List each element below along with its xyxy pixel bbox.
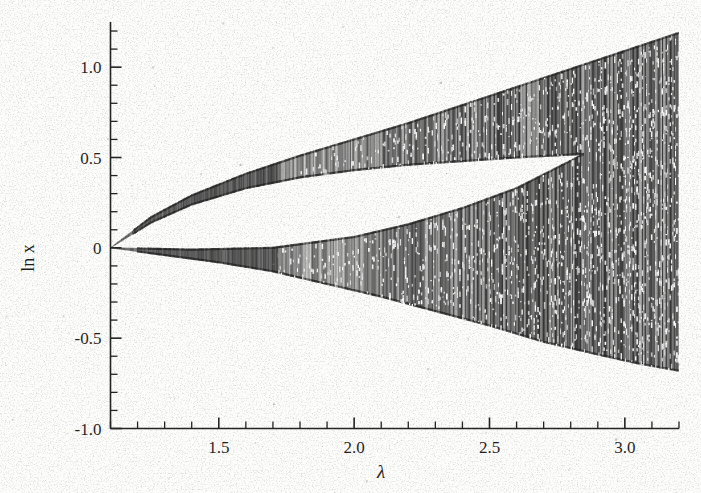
scan-dust-speck: [261, 174, 263, 176]
scan-dust-speck: [467, 338, 468, 339]
scan-dust-speck: [366, 480, 368, 482]
scan-dust-speck: [139, 167, 140, 168]
scan-dust-speck: [429, 282, 431, 284]
scan-dust-speck: [200, 173, 202, 175]
scan-dust-speck: [68, 332, 69, 333]
scan-dust-speck: [263, 242, 264, 243]
y-tick-marks: [111, 31, 122, 428]
scan-dust-speck: [6, 315, 8, 317]
scan-dust-speck: [488, 230, 490, 232]
attractor-cloud: [111, 32, 679, 372]
scan-dust-speck: [428, 297, 430, 299]
scan-dust-speck: [273, 403, 275, 405]
scan-dust-speck: [25, 409, 28, 412]
scan-dust-speck: [518, 379, 519, 380]
x-tick-label-group: 1.52.02.53.0: [208, 438, 635, 457]
x-tick-label: 2.0: [344, 438, 365, 457]
scan-dust-speck: [154, 85, 156, 87]
scan-dust-speck: [427, 368, 429, 370]
scan-dust-speck: [621, 421, 622, 422]
scan-dust-speck: [342, 26, 344, 28]
scan-dust-speck: [654, 132, 656, 134]
scan-dust-speck: [574, 177, 575, 178]
scan-dust-speck: [398, 216, 401, 219]
scan-dust-speck: [145, 412, 146, 413]
scan-dust-speck: [477, 125, 478, 126]
scan-dust-speck: [485, 432, 487, 434]
bifurcation-figure: 1.00.50-0.5-1.0 1.52.02.53.0 λ ln x: [0, 0, 701, 493]
scan-dust-speck: [615, 438, 618, 441]
y-tick-label-group: 1.00.50-0.5-1.0: [75, 58, 102, 438]
scan-dust-speck: [305, 242, 307, 244]
scan-dust-speck: [345, 215, 346, 216]
scan-dust-speck: [353, 295, 355, 297]
scan-dust-speck: [575, 111, 576, 112]
scan-dust-speck: [375, 265, 376, 266]
scan-dust-speck: [446, 135, 448, 137]
y-tick-label: -0.5: [75, 329, 102, 348]
scan-dust-speck: [107, 138, 109, 140]
scan-dust-speck: [345, 237, 347, 239]
x-axis-title: λ: [376, 461, 385, 482]
y-axis-title: ln x: [18, 244, 38, 272]
bifurcation-plot: 1.00.50-0.5-1.0 1.52.02.53.0 λ ln x: [0, 0, 701, 493]
x-tick-marks: [111, 418, 680, 429]
x-tick-label: 3.0: [614, 438, 635, 457]
scan-dust-speck: [472, 191, 473, 192]
scan-dust-speck: [222, 22, 224, 24]
y-tick-label: 0.5: [80, 149, 101, 168]
scan-dust-speck: [90, 277, 91, 278]
scan-dust-speck: [62, 315, 64, 317]
y-tick-label: 1.0: [80, 58, 101, 77]
scan-dust-speck: [455, 307, 457, 309]
x-tick-label: 1.5: [208, 438, 229, 457]
scan-dust-speck: [472, 241, 474, 243]
scan-dust-speck: [256, 46, 257, 47]
scan-dust-speck: [446, 173, 448, 175]
scan-dust-speck: [239, 164, 241, 166]
y-tick-label: 0: [93, 239, 102, 258]
scan-dust-speck: [537, 425, 538, 426]
scan-dust-speck: [272, 47, 274, 49]
scan-dust-speck: [322, 446, 323, 447]
scan-dust-speck: [294, 254, 295, 255]
scan-dust-speck: [462, 197, 464, 199]
scan-dust-speck: [414, 300, 416, 302]
scan-dust-speck: [279, 23, 280, 24]
scan-dust-speck: [255, 442, 257, 444]
scan-dust-speck: [690, 314, 691, 315]
scan-dust-speck: [32, 220, 33, 221]
scan-dust-speck: [608, 354, 610, 356]
x-tick-label: 2.5: [479, 438, 500, 457]
scan-dust-speck: [559, 26, 560, 27]
scan-dust-speck: [307, 416, 308, 417]
scan-dust-speck: [173, 397, 175, 399]
scan-dust-speck: [168, 478, 170, 480]
scan-dust-speck: [662, 127, 664, 129]
scan-dust-speck: [568, 470, 569, 471]
scan-dust-speck: [12, 419, 14, 421]
scan-dust-speck: [131, 185, 133, 187]
scan-dust-speck: [152, 66, 154, 68]
scan-dust-speck: [439, 82, 442, 85]
scan-dust-speck: [398, 178, 400, 180]
scan-dust-speck: [541, 180, 543, 182]
scan-dust-speck: [370, 320, 372, 322]
scan-dust-speck: [677, 363, 679, 365]
scan-dust-speck: [412, 419, 413, 420]
scan-dust-speck: [36, 392, 37, 393]
scan-dust-speck: [540, 106, 542, 108]
y-tick-label: -1.0: [75, 420, 102, 439]
